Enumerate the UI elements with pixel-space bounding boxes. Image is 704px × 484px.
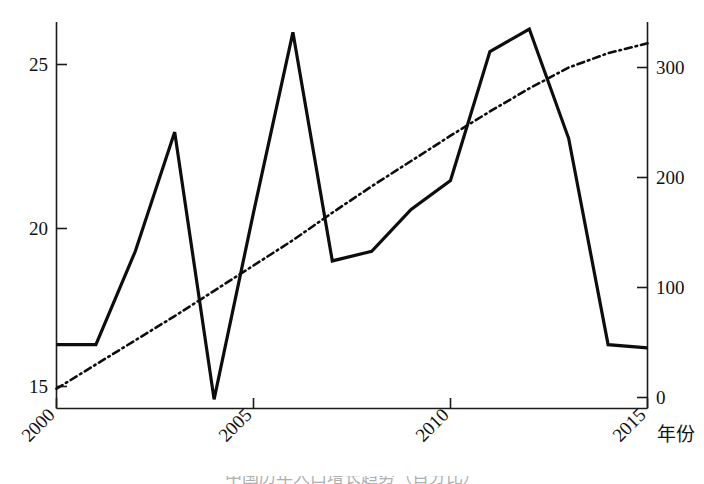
x-tick-label-2000: 2000 bbox=[17, 404, 59, 446]
left-tick-label-25: 25 bbox=[29, 54, 48, 75]
right-tick-label-300: 300 bbox=[656, 57, 685, 78]
chart-figure: 25 20 15 300 200 100 0 2000 2005 2010 20… bbox=[0, 0, 704, 484]
x-axis-ticks bbox=[57, 398, 648, 409]
chart-canvas: 25 20 15 300 200 100 0 2000 2005 2010 20… bbox=[0, 0, 704, 484]
left-axis-ticks bbox=[57, 65, 68, 387]
solid-series-line bbox=[57, 29, 648, 399]
left-tick-label-20: 20 bbox=[29, 218, 48, 239]
x-tick-label-2015: 2015 bbox=[608, 404, 650, 446]
x-tick-label-2010: 2010 bbox=[411, 404, 453, 446]
right-tick-label-200: 200 bbox=[656, 167, 685, 188]
right-tick-label-100: 100 bbox=[656, 277, 685, 298]
x-axis-title: 年份 bbox=[657, 424, 695, 445]
left-tick-label-15: 15 bbox=[29, 376, 48, 397]
right-tick-label-0: 0 bbox=[656, 387, 666, 408]
figure-caption-strip: 中国历年人口增长趋势（百分比） bbox=[0, 476, 704, 484]
figure-caption: 中国历年人口增长趋势（百分比） bbox=[0, 476, 704, 484]
x-tick-label-2005: 2005 bbox=[214, 404, 256, 446]
dash-dot-series-line bbox=[57, 43, 648, 388]
